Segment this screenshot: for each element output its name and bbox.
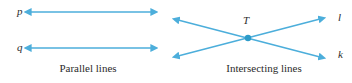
intersection-point-T	[245, 35, 251, 41]
caption-intersecting-lines: Intersecting lines	[176, 63, 352, 74]
line-label-k: k	[338, 49, 343, 60]
line-label-l: l	[338, 12, 341, 23]
caption-parallel-lines: Parallel lines	[0, 63, 176, 74]
point-label-T: T	[243, 15, 249, 26]
line-label-q: q	[17, 42, 23, 53]
line-label-p: p	[17, 6, 23, 17]
geometry-figure: p q T l k Parallel lines Intersecting li…	[0, 0, 352, 83]
